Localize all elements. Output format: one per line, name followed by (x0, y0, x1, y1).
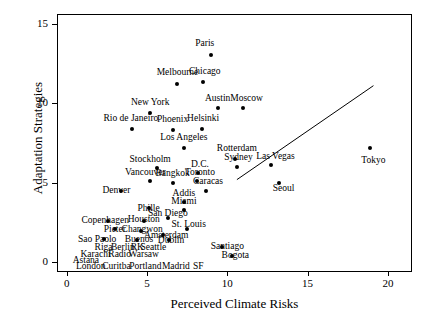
data-point-label: Tokyo (361, 155, 385, 165)
data-point-label: Santiago (211, 241, 244, 251)
y-tick-mark (52, 262, 57, 263)
data-point (269, 163, 273, 167)
y-tick-mark (52, 103, 57, 104)
data-point-label: SF (193, 261, 204, 271)
y-tick-label: 15 (22, 17, 48, 29)
data-point-label: Sydney (224, 152, 253, 162)
data-point-label: Rotterdam (217, 143, 257, 153)
x-tick-label: 0 (52, 277, 82, 289)
data-point-label: Curitba (102, 261, 131, 271)
x-tick-label: 5 (132, 277, 162, 289)
data-point-label: Moscow (230, 93, 263, 103)
data-point-label: Madrid (162, 261, 190, 271)
data-point (235, 165, 239, 169)
data-point-label: Austin (205, 93, 230, 103)
x-tick-label: 15 (293, 277, 323, 289)
data-point-label: Houston (128, 214, 160, 224)
x-tick-mark (67, 271, 68, 276)
x-tick-label: 10 (212, 277, 242, 289)
y-tick-label: 0 (22, 255, 48, 267)
data-point-label: Warsaw (129, 249, 159, 259)
data-point-label: New York (131, 97, 170, 107)
data-point-label: Caracas (193, 176, 223, 186)
x-tick-mark (147, 271, 148, 276)
data-point-label: Denver (102, 185, 130, 195)
data-point (182, 146, 186, 150)
data-point-label: Paris (195, 38, 214, 48)
data-point (171, 181, 175, 185)
data-point-label: Miami (171, 196, 196, 206)
data-point (216, 106, 220, 110)
data-point-label: London (76, 261, 106, 271)
y-tick-mark (52, 183, 57, 184)
data-point-label: Phoenix (157, 114, 188, 124)
data-point-label: Helsinki (187, 113, 219, 123)
x-tick-mark (227, 271, 228, 276)
scatter-chart: ParisMelbourneChicagoAustinMoscowNew Yor… (0, 0, 434, 329)
data-point (200, 127, 204, 131)
data-point-label: St. Louis (172, 219, 206, 229)
data-point-label: Seoul (273, 183, 295, 193)
data-point (368, 146, 372, 150)
x-tick-mark (308, 271, 309, 276)
x-axis-title: Perceived Climate Risks (57, 296, 412, 312)
x-tick-label: 20 (373, 277, 403, 289)
x-tick-mark (388, 271, 389, 276)
data-point-label: Las Vegas (256, 151, 295, 161)
data-point-label: Stockholm (130, 154, 171, 164)
data-point-label: Bogota (222, 250, 249, 260)
data-point-label: Portland (129, 261, 161, 271)
y-axis-title: Adaptation Strategies (30, 38, 46, 238)
data-point-label: Chicago (189, 66, 221, 76)
data-point-label: Rio de Janeiro (103, 113, 158, 123)
data-point-label: Bangkok (155, 168, 189, 178)
data-point-label: Los Angeles (160, 132, 207, 142)
y-tick-mark (52, 24, 57, 25)
